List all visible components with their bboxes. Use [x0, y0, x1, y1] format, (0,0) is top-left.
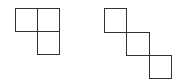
square-step-2	[126, 32, 150, 56]
diagram-canvas	[0, 0, 182, 82]
square-top-left	[15, 8, 38, 32]
square-step-3	[149, 55, 172, 79]
square-bottom	[37, 31, 60, 55]
square-top-right	[37, 8, 60, 32]
square-step-1	[104, 8, 127, 33]
